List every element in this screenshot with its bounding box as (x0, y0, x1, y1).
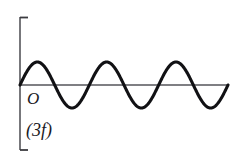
sine-waveform-figure: O (3f) (0, 0, 240, 161)
origin-label: O (27, 90, 39, 107)
harmonic-label: (3f) (26, 121, 52, 139)
